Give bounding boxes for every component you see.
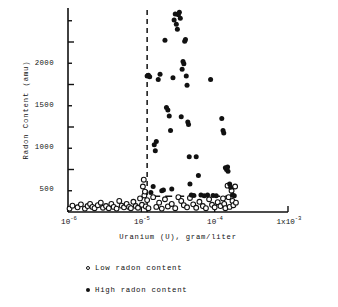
data-point-high-radon bbox=[168, 128, 173, 133]
data-point-high-radon bbox=[185, 83, 190, 88]
data-point-high-radon bbox=[228, 185, 233, 190]
data-point-low-radon bbox=[169, 202, 174, 207]
data-point-high-radon bbox=[178, 16, 183, 21]
plot-area bbox=[0, 0, 338, 307]
data-point-high-radon bbox=[187, 181, 192, 186]
data-point-low-radon bbox=[70, 203, 75, 208]
data-point-low-radon bbox=[157, 200, 162, 205]
y-axis-ticks bbox=[68, 21, 74, 191]
data-point-low-radon bbox=[233, 184, 238, 189]
series-high-radon-content bbox=[145, 10, 237, 199]
data-point-low-radon bbox=[207, 197, 212, 202]
data-point-high-radon bbox=[158, 72, 163, 77]
radon-uranium-scatter-figure: Radon Content (amu) Uranium (U), gram/li… bbox=[0, 0, 338, 307]
data-point-high-radon bbox=[148, 190, 153, 195]
data-point-high-radon bbox=[174, 22, 179, 27]
data-point-low-radon bbox=[194, 205, 199, 210]
data-point-high-radon bbox=[153, 148, 158, 153]
data-point-low-radon bbox=[151, 195, 156, 200]
data-point-high-radon bbox=[221, 130, 226, 135]
data-point-low-radon bbox=[212, 205, 217, 210]
data-point-low-radon bbox=[98, 200, 103, 205]
data-point-low-radon bbox=[145, 198, 150, 203]
data-point-high-radon bbox=[165, 108, 170, 113]
data-point-low-radon bbox=[204, 206, 209, 211]
data-point-high-radon bbox=[205, 193, 210, 198]
data-point-low-radon bbox=[140, 184, 145, 189]
data-point-low-radon bbox=[163, 197, 168, 202]
data-point-high-radon bbox=[186, 122, 191, 127]
data-point-high-radon bbox=[181, 61, 186, 66]
filled-circle-icon bbox=[86, 288, 90, 292]
data-point-low-radon bbox=[114, 206, 119, 211]
data-point-low-radon bbox=[128, 206, 133, 211]
data-point-high-radon bbox=[156, 77, 161, 82]
data-point-high-radon bbox=[175, 27, 180, 32]
data-point-high-radon bbox=[208, 77, 213, 82]
data-point-low-radon bbox=[143, 189, 148, 194]
data-point-high-radon bbox=[147, 74, 152, 79]
data-point-high-radon bbox=[170, 75, 175, 80]
data-point-high-radon bbox=[172, 17, 177, 22]
data-point-high-radon bbox=[167, 113, 172, 118]
data-point-high-radon bbox=[177, 10, 182, 15]
threshold-annotation-lines bbox=[147, 10, 235, 212]
open-circle-icon bbox=[86, 266, 90, 270]
data-point-high-radon bbox=[179, 114, 184, 119]
data-point-low-radon bbox=[117, 199, 122, 204]
legend-label-high-radon: High radon content bbox=[95, 286, 187, 294]
data-point-high-radon bbox=[196, 173, 201, 178]
axis-lines bbox=[68, 8, 288, 212]
data-point-high-radon bbox=[194, 154, 199, 159]
data-point-high-radon bbox=[187, 154, 192, 159]
data-point-high-radon bbox=[225, 164, 230, 169]
data-point-low-radon bbox=[141, 177, 146, 182]
data-point-low-radon bbox=[79, 202, 84, 207]
data-point-high-radon bbox=[191, 193, 196, 198]
data-point-low-radon bbox=[221, 196, 226, 201]
data-point-high-radon bbox=[169, 187, 174, 192]
data-point-low-radon bbox=[173, 206, 178, 211]
data-point-high-radon bbox=[161, 187, 166, 192]
data-point-high-radon bbox=[151, 184, 156, 189]
data-point-high-radon bbox=[232, 193, 237, 198]
data-point-low-radon bbox=[146, 206, 151, 211]
data-point-low-radon bbox=[197, 199, 202, 204]
data-point-low-radon bbox=[234, 200, 239, 205]
data-point-high-radon bbox=[154, 139, 159, 144]
data-point-high-radon bbox=[219, 116, 224, 121]
data-point-high-radon bbox=[214, 193, 219, 198]
data-point-high-radon bbox=[180, 67, 185, 72]
legend-entry-high-radon: High radon content bbox=[86, 286, 187, 294]
data-point-low-radon bbox=[138, 196, 143, 201]
data-point-high-radon bbox=[184, 74, 189, 79]
legend-label-low-radon: Low radon content bbox=[95, 264, 182, 272]
data-point-high-radon bbox=[226, 169, 231, 174]
data-point-low-radon bbox=[185, 205, 190, 210]
data-point-low-radon bbox=[159, 206, 164, 211]
data-point-high-radon bbox=[183, 37, 188, 42]
data-point-high-radon bbox=[162, 38, 167, 43]
legend-entry-low-radon: Low radon content bbox=[86, 264, 182, 272]
